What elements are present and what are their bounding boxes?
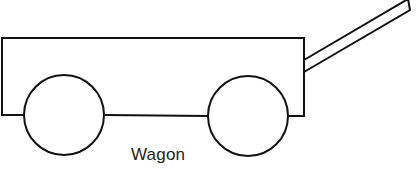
right-wheel	[208, 76, 288, 156]
wagon-drawing	[0, 0, 416, 169]
wagon-body-bottom	[105, 115, 208, 116]
diagram-caption: Wagon	[131, 145, 185, 165]
left-wheel	[24, 75, 104, 155]
wagon-handle	[304, 0, 410, 72]
